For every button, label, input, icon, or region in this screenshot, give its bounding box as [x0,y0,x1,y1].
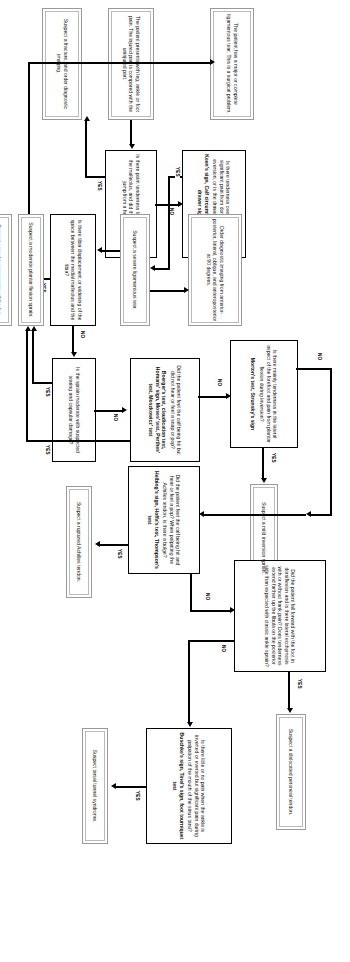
node-question-tibia-displacement-text: Is there tibia displacement or widening … [63,218,83,322]
helbing-question-body: Did the patient feel the calf being hit … [162,475,181,566]
label-tibia-no: NO [80,330,85,339]
boergers-tests-label: Boerger's test, claudication test, Homan… [148,362,168,458]
arrow-peroneal-no [187,722,193,727]
node-mild-inversion-sprain-text: Suspect a mild inversion sprain. [261,502,268,574]
label-helbing-yes: YES [117,548,122,560]
node-surgical-problem-text: The patient has a major or complete liga… [225,12,238,116]
connector-helbing-no-up [190,610,230,612]
connector-tibia-yes-seg [28,62,30,132]
label-keens-yes: YES [175,166,180,178]
helbing-tests-label: Helbing's sign, Hoffa's test, Thompson's… [147,470,160,570]
connector-pt-no-up [155,204,178,206]
label-morton-no: NO [317,352,322,361]
morton-tests-label: Morton's test, Strunsky's sign [250,344,257,444]
node-order-imaging-text: Order diagnostic imaging from anterior-p… [205,218,225,322]
node-dislocated-peroneal-tendon-text: Suspect a dislocated peroneal tendon. [288,729,295,816]
arrow-severelig-to-tibia [97,247,102,253]
connector-sprainmod-yes-left [32,330,34,384]
node-severe-ligamentous-tear: Suspect a severe ligamentous tear. [120,214,150,326]
connector-keens-yes-right [168,176,170,270]
node-ruptured-achilles: Suspect a ruptured Achilles tendon. [66,486,92,598]
connector-severelig-to-imaging [150,290,184,292]
connector-morton-no-down [310,514,332,516]
connector-keens-yes-down2 [154,268,170,270]
arrow-sprainmod-no [122,407,127,413]
arrow-sprainmod-yes [31,326,37,331]
node-question-morton-text: Is there mainly tenderness in the latera… [250,344,278,444]
connector-tunnel-yes-down [114,786,146,788]
label-peroneal-yes: YES [297,678,302,690]
node-start: The patient presents with leg, ankle or … [108,8,154,120]
node-moderate-plantar-sprain-text: Suspect a moderate plantar flexion sprai… [28,222,35,317]
arrow-boergers-yes [25,326,31,331]
morton-question-body: Is there mainly tenderness in the latera… [259,345,278,442]
tunnel-tests-label: Buschke's sign, Tinel's sign, foot tourn… [172,732,185,840]
node-question-sprain-moderate: Is the sprain moderate with suspected te… [52,358,96,462]
arrow-tibia-yes-to-surgical [210,59,215,65]
connector-boergers-yes-left [26,330,28,442]
connector-peroneal-yes-right [288,672,290,708]
boergers-question-body: Did the patient feel the calf being hit … [170,365,183,454]
arrow-pt-yes-to-fracture [84,116,90,121]
arrow-tunnel-yes [111,783,116,789]
node-question-peroneal-text: Did the patient fall forward with the fo… [264,564,297,668]
connector-peroneal-no-down [188,640,234,642]
flowchart-canvas: The patient presents with leg, ankle or … [0,0,350,962]
label-tunnel-yes: YES [135,790,140,802]
node-question-morton: Is there mainly tenderness in the latera… [230,340,298,448]
node-question-tarsal-tunnel-text: Is there little or no pain when the ankl… [172,732,207,840]
node-question-helbing-text: Did the patient feel the calf being hit … [147,470,182,570]
node-suspect-fracture: Suspect a fracture, and order diagnostic… [42,8,82,120]
connector-severelig-to-tibia [102,250,120,252]
node-question-peroneal: Did the patient fall forward with the fo… [234,560,326,672]
node-tarsal-tunnel-syndrome: Suspect tarsal tunnel syndrome. [82,728,108,844]
connector-boergers-no-up [198,396,226,398]
connector-into-helbing [202,514,306,516]
connector-helbing-no-right [190,574,192,612]
connector-helbing-yes-down [98,544,128,546]
node-order-imaging: Order diagnostic imaging from anterior-p… [188,214,242,326]
connector-start-to-point-tenderness [130,120,132,144]
label-boergers-no: NO [217,378,222,387]
node-question-boergers-text: Did the patient feel the calf being hit … [148,362,183,458]
arrow-tibia-no [71,352,77,357]
arrow-keens-yes [150,265,155,271]
node-moderate-plantar-sprain: Suspect a moderate plantar flexion sprai… [18,214,44,326]
node-severe-ligamentous-tear-text: Suspect a severe ligamentous tear. [132,230,139,310]
connector-pt-yes-left [85,120,87,178]
label-morton-yes: YES [271,452,276,464]
arrow-helbing-yes [95,541,100,547]
node-question-tibia-displacement: Is there tibia displacement or widening … [50,214,96,326]
tunnel-question-body: Is there little or no pain when the ankl… [187,735,206,837]
label-sprainmod-no: NO [113,413,118,422]
node-surgical-problem: The patient has a major or complete liga… [210,8,254,120]
node-tarsal-tunnel-syndrome-text: Suspect tarsal tunnel syndrome. [92,750,99,823]
connector-morton-no-right [330,368,332,516]
node-question-helbing: Did the patient feel the calf being hit … [128,466,200,574]
node-question-sprain-moderate-text: Is the sprain moderate with suspected te… [67,362,80,458]
arrow-start-to-point-tenderness [129,144,135,149]
label-pt-yes: YES [97,180,102,192]
connector-boergers-yes-down [26,440,130,442]
connector-sprainmod-no-up [94,410,122,412]
connector-morton-yes-right [262,448,264,478]
node-question-tarsal-tunnel: Is there little or no pain when the ankl… [146,728,232,844]
node-start-text: The patient presents with leg, ankle or … [121,12,141,116]
label-boergers-yes: YES [45,444,50,456]
arrow-morton-no [306,511,311,517]
arrow-into-helbing [199,511,204,517]
arrow-morton-yes [261,478,267,483]
connector-peroneal-no-right [188,640,190,722]
node-vascular-compromise: Suspect vascular compromise of the leg. [0,214,12,326]
node-vascular-compromise-text: Suspect vascular compromise of the leg. [0,224,2,316]
node-dislocated-peroneal-tendon: Suspect a dislocated peroneal tendon. [276,714,306,830]
label-sprainmod-yes: YES [45,386,50,398]
connector-sprainmod-yes-down [32,382,52,384]
node-suspect-fracture-text: Suspect a fracture, and order diagnostic… [55,12,68,116]
label-peroneal-no: NO [221,644,226,653]
node-ruptured-achilles-text: Suspect a ruptured Achilles tendon. [76,502,83,582]
connector-pt-yes-down [85,176,105,178]
connector-tibia-no-right [72,326,74,352]
connector-morton-no-up [296,368,332,370]
arrow-severelig-to-imaging [184,287,189,293]
